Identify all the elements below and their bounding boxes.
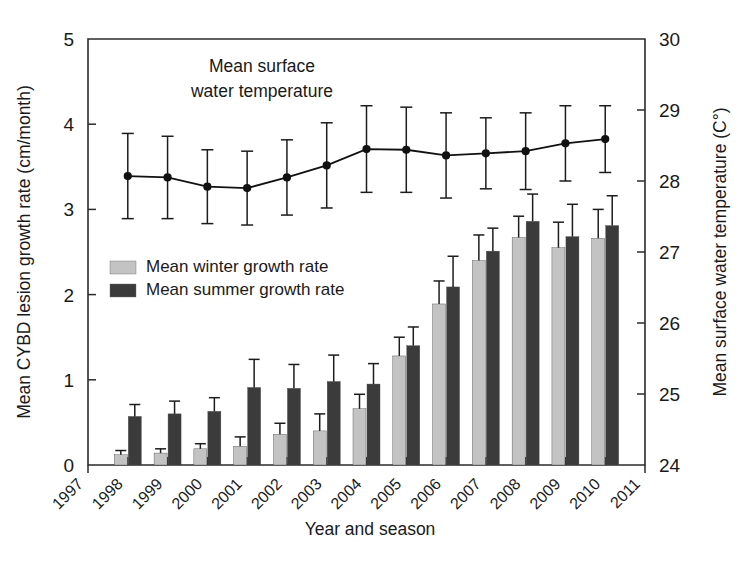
error-bar-winter-2006 <box>434 281 445 304</box>
error-bar-summer-2003 <box>328 355 339 381</box>
temperature-marker-2001 <box>243 184 251 192</box>
left-y-axis: 012345 <box>63 29 96 476</box>
right-y-axis: 24252627282930 <box>637 29 681 476</box>
x-tick-label-2006: 2006 <box>407 475 444 512</box>
legend-swatch-winter <box>110 261 136 274</box>
x-tick-label-2010: 2010 <box>566 475 603 512</box>
error-bar-winter-2001 <box>235 437 246 446</box>
error-bar-summer-2007 <box>487 228 498 251</box>
error-bar-winter-2004 <box>354 394 365 408</box>
bar-summer-1999 <box>168 414 181 465</box>
bar-summer-2002 <box>287 388 300 465</box>
temperature-marker-2004 <box>362 145 370 153</box>
error-bar-winter-2002 <box>274 423 285 434</box>
y2-tick-label: 28 <box>659 171 680 192</box>
bar-summer-2003 <box>327 382 340 465</box>
temperature-marker-2009 <box>561 139 569 147</box>
error-bar-winter-1999 <box>155 449 166 453</box>
bar-winter-2001 <box>234 446 247 465</box>
bar-winter-2002 <box>273 434 286 465</box>
error-bar-winter-2010 <box>593 209 604 238</box>
y2-tick-label: 25 <box>659 384 680 405</box>
y2-tick-label: 29 <box>659 100 680 121</box>
temperature-marker-2008 <box>522 147 530 155</box>
error-bar-summer-1998 <box>129 405 140 417</box>
error-bar-winter-2000 <box>195 444 206 449</box>
dual-axis-chart: 012345 24252627282930 199719981999200020… <box>0 0 755 565</box>
bar-winter-2007 <box>472 261 485 465</box>
error-bar-summer-2002 <box>288 364 299 388</box>
x-tick-label-1999: 1999 <box>129 475 166 512</box>
temperature-marker-2005 <box>402 146 410 154</box>
bar-summer-2009 <box>566 237 579 465</box>
temperature-marker-2003 <box>323 161 331 169</box>
bar-winter-2000 <box>194 449 207 465</box>
bar-summer-1998 <box>128 416 141 465</box>
bar-summer-2005 <box>407 346 420 465</box>
error-bar-winter-1998 <box>115 451 126 455</box>
bar-error-bars-layer <box>115 194 617 455</box>
temperature-marker-1999 <box>163 173 171 181</box>
error-bar-summer-2008 <box>527 194 538 221</box>
chart-figure: 012345 24252627282930 199719981999200020… <box>0 0 755 565</box>
x-axis-title: Year and season <box>305 519 436 539</box>
temperature-line-layer <box>122 106 611 225</box>
bar-summer-2001 <box>248 387 261 465</box>
legend-label-winter: Mean winter growth rate <box>146 257 328 276</box>
secondary-y-axis-title: Mean surface water temperature (C°) <box>710 107 730 396</box>
y2-tick-label: 26 <box>659 313 680 334</box>
legend-label-summer: Mean summer growth rate <box>146 280 344 299</box>
x-tick-label-2008: 2008 <box>487 475 524 512</box>
bar-winter-2003 <box>313 431 326 465</box>
bar-summer-2008 <box>526 221 539 465</box>
bar-summer-2000 <box>208 411 221 465</box>
y-tick-label: 1 <box>63 370 74 391</box>
x-tick-label-2003: 2003 <box>288 475 325 512</box>
temperature-marker-2006 <box>442 151 450 159</box>
error-bar-summer-2009 <box>567 204 578 236</box>
annotation-mean-surface-water-temperature: Mean surface water temperature <box>190 56 333 101</box>
error-bar-summer-2000 <box>209 398 220 412</box>
error-bar-summer-2010 <box>607 196 618 226</box>
x-tick-label-2002: 2002 <box>248 475 285 512</box>
bar-winter-2005 <box>393 356 406 465</box>
temperature-marker-1998 <box>124 172 132 180</box>
annotation-line-1: Mean surface <box>209 56 315 76</box>
bar-winter-2004 <box>353 409 366 465</box>
bar-winter-1999 <box>154 453 167 465</box>
y-axis-title: Mean CYBD lesion growth rate (cm/month) <box>14 85 34 419</box>
error-bar-summer-2005 <box>408 327 419 346</box>
x-tick-label-2001: 2001 <box>208 475 245 512</box>
bar-winter-2010 <box>592 238 605 465</box>
x-tick-label-2004: 2004 <box>327 475 364 512</box>
error-bar-winter-2005 <box>394 337 405 356</box>
y-tick-label: 3 <box>63 199 74 220</box>
x-tick-label-1998: 1998 <box>89 475 126 512</box>
temperature-marker-2010 <box>601 135 609 143</box>
bar-winter-2008 <box>512 238 525 465</box>
error-bar-winter-2003 <box>314 414 325 431</box>
x-tick-label-1997: 1997 <box>49 475 86 512</box>
legend-swatch-summer <box>110 284 136 297</box>
error-bar-summer-2001 <box>249 359 260 387</box>
y2-tick-label: 30 <box>659 29 680 50</box>
temperature-marker-2000 <box>203 183 211 191</box>
y2-tick-label: 24 <box>659 455 681 476</box>
temperature-marker-2002 <box>283 173 291 181</box>
bar-winter-2009 <box>552 248 565 465</box>
x-tick-label-2000: 2000 <box>168 475 205 512</box>
x-tick-label-2005: 2005 <box>367 475 404 512</box>
temperature-marker-2007 <box>482 149 490 157</box>
error-bar-summer-2004 <box>368 364 379 384</box>
y-tick-label: 5 <box>63 29 74 50</box>
error-bar-winter-2007 <box>473 235 484 261</box>
x-tick-label-2009: 2009 <box>526 475 563 512</box>
bar-summer-2007 <box>486 251 499 465</box>
error-bar-summer-1999 <box>169 401 180 414</box>
y-tick-label: 2 <box>63 285 74 306</box>
error-bar-winter-2008 <box>513 216 524 237</box>
bar-winter-2006 <box>433 304 446 465</box>
bar-winter-1998 <box>114 455 127 465</box>
y2-tick-label: 27 <box>659 242 680 263</box>
x-tick-label-2007: 2007 <box>447 475 484 512</box>
